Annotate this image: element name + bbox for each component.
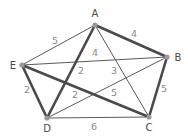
node-a — [92, 22, 97, 27]
edges-group — [22, 25, 167, 118]
edge-e-c — [22, 65, 149, 117]
edge-weight-b-c: 5 — [161, 83, 167, 94]
edge-weight-d-b: 5 — [111, 87, 117, 98]
node-e — [19, 62, 24, 67]
node-label-e: E — [10, 60, 16, 71]
edge-weight-e-d: 2 — [24, 84, 30, 95]
edge-weight-a-e: 5 — [52, 35, 58, 46]
weighted-graph: 5442322556 ABCDE — [0, 0, 188, 139]
node-label-d: D — [43, 123, 51, 134]
node-label-b: B — [175, 52, 182, 63]
node-b — [164, 54, 169, 59]
node-c — [146, 114, 151, 119]
edge-a-c — [95, 25, 149, 117]
edge-d-b — [47, 57, 167, 118]
edge-weight-a-b: 4 — [131, 28, 137, 39]
edge-weight-e-c: 2 — [72, 89, 78, 100]
edge-weight-e-b: 4 — [92, 47, 98, 58]
edge-weight-a-d: 2 — [78, 65, 84, 76]
node-label-a: A — [92, 8, 99, 19]
edge-e-b — [22, 57, 167, 65]
edge-d-c — [47, 117, 149, 118]
edge-weight-a-c: 3 — [111, 65, 117, 76]
edge-weight-d-c: 6 — [91, 121, 97, 132]
node-d — [44, 115, 49, 120]
node-label-c: C — [146, 122, 153, 133]
